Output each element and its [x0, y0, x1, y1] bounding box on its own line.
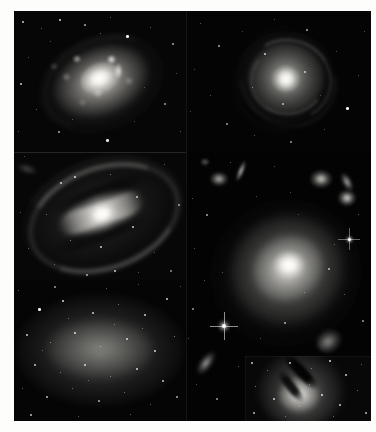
spiral-arm-outer [14, 152, 186, 280]
field-star [298, 214, 299, 215]
field-star [176, 73, 177, 74]
resolved-star [98, 400, 100, 402]
field-star [194, 69, 195, 70]
dust-lane [48, 169, 151, 220]
galaxy-halo [236, 31, 336, 123]
field-star [311, 368, 312, 369]
hii-knot [60, 182, 62, 184]
galaxy-disc [43, 31, 159, 131]
galaxy-disc [248, 43, 324, 113]
field-star [59, 19, 61, 21]
field-star [358, 75, 359, 76]
field-star [178, 204, 180, 206]
dwarf-body [16, 294, 184, 406]
resolved-star [88, 380, 89, 381]
galaxy-nucleus [85, 200, 118, 228]
resolved-star [150, 404, 151, 405]
hii-knot [46, 214, 47, 215]
dust-lane [280, 356, 321, 393]
galaxy-core [272, 66, 300, 92]
spiral-arm [220, 12, 356, 147]
resolved-star [166, 298, 168, 300]
field-star [192, 308, 194, 310]
field-star [216, 398, 218, 400]
hii-knot [252, 87, 253, 88]
resolved-star [142, 328, 143, 329]
background-galaxy-small-elliptical [210, 172, 228, 186]
field-star [345, 374, 347, 376]
resolved-star [136, 368, 138, 370]
field-star [164, 103, 166, 105]
resolved-star [92, 312, 94, 314]
field-star [299, 406, 300, 407]
hii-knot [100, 246, 102, 248]
resolved-star [154, 350, 156, 352]
field-star [321, 394, 323, 396]
elliptical-nucleus [274, 252, 304, 278]
hii-knot [72, 55, 82, 63]
spiral-arm [214, 11, 360, 152]
panel-dust-lane-galaxy [245, 356, 371, 421]
hii-knot [70, 240, 71, 241]
field-star [357, 390, 358, 391]
resolved-star [126, 338, 128, 340]
field-star [285, 416, 286, 417]
panel-clumpy-starburst-spiral [14, 11, 186, 152]
resolved-star [130, 414, 131, 415]
field-star [58, 131, 60, 133]
resolved-star [38, 308, 41, 311]
field-star [22, 21, 24, 23]
field-star [290, 192, 291, 193]
dustlane-galaxy-halo [259, 356, 343, 421]
field-star [50, 41, 51, 42]
field-star [328, 268, 330, 270]
field-star [304, 292, 305, 293]
field-star [242, 31, 243, 32]
field-star [210, 95, 211, 96]
field-star [100, 33, 101, 34]
field-star [172, 43, 174, 45]
field-star [170, 270, 172, 272]
resolved-star [124, 392, 125, 393]
background-galaxy-edge-on [234, 160, 248, 183]
field-star [110, 17, 111, 18]
field-star [194, 248, 195, 249]
field-star [222, 272, 223, 273]
resolved-star [118, 304, 119, 305]
field-star [334, 244, 335, 245]
field-star [336, 51, 337, 52]
spiral-arm [235, 30, 340, 131]
hii-knot [92, 89, 104, 97]
field-star [54, 264, 55, 265]
elliptical-bulge [241, 223, 335, 313]
field-star [196, 384, 197, 385]
resolved-star [34, 364, 36, 366]
field-star [180, 131, 181, 132]
field-star [255, 386, 256, 387]
field-star [344, 294, 345, 295]
field-star [114, 270, 116, 272]
resolved-star [72, 388, 73, 389]
hii-knot [124, 77, 134, 85]
field-star [20, 83, 22, 85]
galaxy-montage-plate [14, 11, 371, 421]
background-galaxy-group-member [338, 171, 356, 193]
background-galaxy-group-member [338, 190, 356, 206]
resolved-star [110, 376, 111, 377]
hii-knot [114, 63, 123, 79]
resolved-star [26, 334, 28, 336]
field-star [324, 129, 325, 130]
field-star [24, 156, 25, 157]
field-star [218, 45, 220, 47]
resolved-star [42, 350, 43, 351]
spiral-arm-outer [14, 152, 186, 280]
resolved-star [50, 342, 51, 343]
field-star [154, 252, 155, 253]
field-star [339, 404, 341, 406]
field-star [106, 139, 109, 142]
field-star [320, 95, 321, 96]
galaxy-bar [53, 182, 149, 245]
field-star [41, 28, 42, 29]
field-star [362, 320, 364, 322]
field-star [28, 248, 29, 249]
